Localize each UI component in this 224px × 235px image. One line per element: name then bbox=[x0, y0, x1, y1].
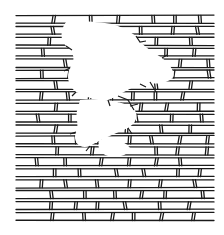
brick-wall-drawing bbox=[0, 0, 224, 235]
